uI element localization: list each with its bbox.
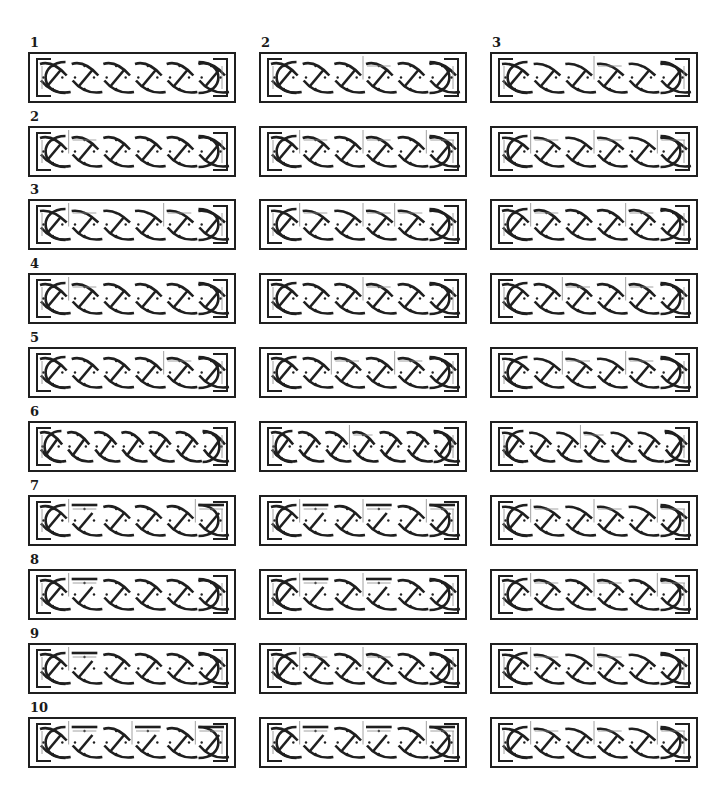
knot-panel-row8-col1: [28, 569, 236, 620]
knot-panel-row9-col1: [28, 643, 236, 694]
knot-panel-row10-col2: [259, 717, 467, 768]
celtic-knot-icon: [30, 54, 234, 101]
knot-panel-row4-col2: [259, 273, 467, 324]
celtic-knot-icon: [492, 497, 696, 544]
knot-panel-row3-col3: [490, 199, 698, 250]
celtic-knot-icon: [261, 128, 465, 175]
knot-panel-row3-col1: [28, 199, 236, 250]
knot-panel-row1-col2: [259, 52, 467, 103]
knot-panel-row1-col3: [490, 52, 698, 103]
knot-panel-row3-col2: [259, 199, 467, 250]
celtic-knot-icon: [261, 571, 465, 618]
celtic-knot-icon: [492, 201, 696, 248]
celtic-knot-icon: [492, 349, 696, 396]
celtic-knot-icon: [492, 128, 696, 175]
knot-panel-row5-col1: [28, 347, 236, 398]
row-label-2: 2: [30, 110, 39, 123]
knot-panel-row9-col3: [490, 643, 698, 694]
knot-panel-row2-col3: [490, 126, 698, 177]
knot-panel-row9-col2: [259, 643, 467, 694]
celtic-knot-icon: [492, 275, 696, 322]
column-label-3: 3: [492, 36, 501, 49]
knot-panel-row7-col2: [259, 495, 467, 546]
celtic-knot-icon: [261, 201, 465, 248]
row-label-4: 4: [30, 257, 39, 270]
celtic-knot-icon: [30, 275, 234, 322]
celtic-knot-icon: [30, 423, 234, 470]
column-label-2: 2: [261, 36, 270, 49]
knot-panel-row7-col3: [490, 495, 698, 546]
celtic-knot-icon: [261, 349, 465, 396]
celtic-knot-icon: [492, 423, 696, 470]
knot-panel-row6-col3: [490, 421, 698, 472]
knot-panel-row1-col1: [28, 52, 236, 103]
celtic-knot-icon: [492, 571, 696, 618]
knot-panel-row8-col3: [490, 569, 698, 620]
row-label-7: 7: [30, 479, 39, 492]
celtic-knot-icon: [30, 571, 234, 618]
celtic-knot-icon: [261, 497, 465, 544]
knot-panel-row2-col2: [259, 126, 467, 177]
celtic-knot-icon: [492, 54, 696, 101]
celtic-knot-icon: [261, 423, 465, 470]
row-label-8: 8: [30, 553, 39, 566]
celtic-knot-icon: [261, 275, 465, 322]
knot-panel-row5-col3: [490, 347, 698, 398]
celtic-knot-icon: [261, 54, 465, 101]
celtic-knot-icon: [30, 201, 234, 248]
row-label-6: 6: [30, 405, 39, 418]
knot-panel-row5-col2: [259, 347, 467, 398]
row-label-9: 9: [30, 627, 39, 640]
knot-panel-row4-col1: [28, 273, 236, 324]
knot-panel-row6-col1: [28, 421, 236, 472]
row-label-3: 3: [30, 183, 39, 196]
celtic-knot-icon: [30, 719, 234, 766]
row-label-5: 5: [30, 331, 39, 344]
knot-panel-row4-col3: [490, 273, 698, 324]
knot-panel-row10-col1: [28, 717, 236, 768]
knot-panel-row7-col1: [28, 495, 236, 546]
celtic-knot-icon: [261, 645, 465, 692]
celtic-knot-icon: [30, 349, 234, 396]
knot-panel-row10-col3: [490, 717, 698, 768]
celtic-knot-icon: [30, 497, 234, 544]
celtic-knot-icon: [30, 128, 234, 175]
row-label-10: 10: [30, 701, 48, 714]
knot-panel-row6-col2: [259, 421, 467, 472]
knot-panel-row8-col2: [259, 569, 467, 620]
knot-panel-row2-col1: [28, 126, 236, 177]
celtic-knot-icon: [492, 719, 696, 766]
celtic-knot-icon: [30, 645, 234, 692]
celtic-knot-icon: [261, 719, 465, 766]
celtic-knot-icon: [492, 645, 696, 692]
row-label-1: 1: [30, 36, 39, 49]
